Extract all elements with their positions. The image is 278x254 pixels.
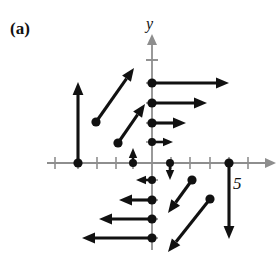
vector-left-arrow-4 — [82, 233, 157, 244]
vector-diagonal-up-right-1 — [91, 68, 134, 127]
vector-diagonal-up-right-2 — [113, 104, 145, 148]
vector-shaft — [96, 79, 127, 122]
vector-base-dot — [147, 98, 156, 107]
vector-short-up-arrow — [129, 148, 137, 167]
vector-arrowhead — [99, 214, 112, 225]
vector-base-dot — [147, 233, 156, 242]
vector-arrowhead — [129, 148, 137, 158]
vector-arrowhead — [216, 78, 229, 89]
y-axis-arrowhead — [147, 34, 157, 45]
vector-arrowhead — [119, 195, 132, 206]
vector-base-dot — [187, 175, 196, 184]
x-axis-arrowhead — [265, 158, 276, 168]
vector-right-arrow-3 — [147, 118, 186, 129]
vector-arrowhead — [82, 233, 95, 244]
vector-short-down-arrow — [166, 159, 174, 180]
vector-base-dot — [205, 194, 214, 203]
vector-base-dot — [73, 158, 82, 167]
vector-shaft — [118, 115, 138, 143]
vector-left-arrow-2 — [119, 195, 157, 206]
vector-base-dot — [129, 159, 137, 167]
vector-base-dot — [166, 159, 174, 167]
vector-arrowhead — [163, 138, 173, 146]
vector-base-dot — [148, 138, 156, 146]
vector-up-arrow-left — [73, 82, 84, 168]
direction-field-plot — [0, 0, 278, 254]
direction-field-figure: (a) y 5 — [0, 0, 278, 254]
vector-left-arrow-3 — [99, 214, 157, 225]
vector-base-dot — [113, 138, 122, 147]
vector-base-dot — [224, 158, 233, 167]
vector-arrowhead — [173, 118, 186, 129]
vector-arrowhead — [166, 170, 174, 180]
vector-base-dot — [91, 117, 100, 126]
vector-arrowhead — [224, 226, 235, 239]
vector-arrowhead — [133, 104, 145, 118]
vector-arrowhead — [136, 176, 146, 184]
vector-shaft — [176, 199, 210, 242]
vector-base-dot — [147, 78, 156, 87]
vector-diagonal-down-left-1 — [168, 175, 197, 213]
vector-base-dot — [147, 118, 156, 127]
vector-right-arrow-2 — [147, 98, 207, 109]
vector-right-arrow-4 — [148, 138, 173, 146]
vector-left-arrow-1 — [136, 176, 156, 184]
vector-down-arrow-right — [224, 158, 235, 239]
vector-base-dot — [147, 214, 156, 223]
vector-arrowhead — [194, 98, 207, 109]
vector-base-dot — [148, 176, 156, 184]
vector-arrowhead — [73, 82, 84, 95]
vector-base-dot — [147, 195, 156, 204]
vector-right-arrow-1 — [147, 78, 229, 89]
